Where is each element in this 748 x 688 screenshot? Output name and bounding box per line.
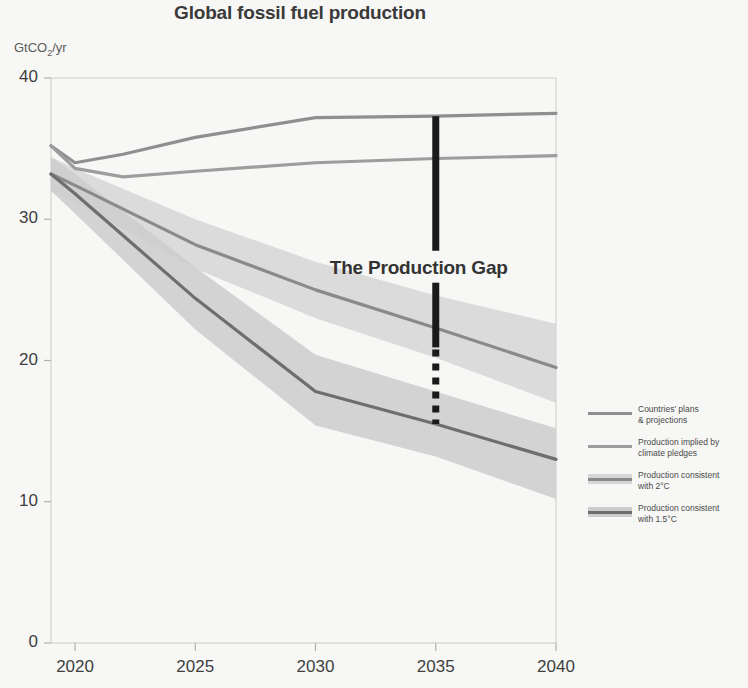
- legend-label: Countries' plans& projections: [632, 404, 699, 426]
- x-axis-tick-label: 2025: [165, 657, 225, 677]
- legend-label-line1: Production consistent: [638, 503, 719, 514]
- legend-label: Production implied byclimate pledges: [632, 437, 719, 459]
- legend-label-line2: with 2°C: [638, 481, 719, 492]
- x-axis-tick-label: 2040: [526, 657, 586, 677]
- legend-label: Production consistentwith 1.5°C: [632, 503, 719, 525]
- x-axis-tick-label: 2035: [406, 657, 466, 677]
- series-line: [51, 113, 556, 162]
- y-axis-tick-label: 10: [4, 491, 38, 511]
- legend-line: [588, 412, 632, 415]
- legend-label-line1: Countries' plans: [638, 404, 699, 415]
- legend-line: [588, 478, 632, 481]
- chart-legend: Countries' plans& projectionsProduction …: [588, 404, 748, 536]
- legend-line: [588, 445, 632, 448]
- legend-label-line1: Production implied by: [638, 437, 719, 448]
- legend-swatch: [588, 472, 632, 486]
- series-line: [51, 146, 556, 177]
- production-gap-annotation-label: The Production Gap: [330, 257, 508, 279]
- plot-area: [0, 0, 748, 688]
- x-axis-tick-label: 2020: [45, 657, 105, 677]
- legend-label-line2: climate pledges: [638, 448, 719, 459]
- y-axis-tick-label: 40: [4, 67, 38, 87]
- legend-swatch: [588, 439, 632, 453]
- legend-item[interactable]: Production consistentwith 1.5°C: [588, 503, 748, 525]
- legend-label-line1: Production consistent: [638, 470, 719, 481]
- legend-label-line2: & projections: [638, 415, 699, 426]
- legend-label-line2: with 1.5°C: [638, 514, 719, 525]
- legend-item[interactable]: Countries' plans& projections: [588, 404, 748, 426]
- legend-item[interactable]: Production consistentwith 2°C: [588, 470, 748, 492]
- legend-line: [588, 511, 632, 514]
- x-axis-tick-label: 2030: [286, 657, 346, 677]
- chart-root: Global fossil fuel production GtCO2/yr T…: [0, 0, 748, 688]
- legend-item[interactable]: Production implied byclimate pledges: [588, 437, 748, 459]
- legend-label: Production consistentwith 2°C: [632, 470, 719, 492]
- legend-swatch: [588, 406, 632, 420]
- y-axis-tick-label: 20: [4, 350, 38, 370]
- legend-swatch: [588, 505, 632, 519]
- y-axis-tick-label: 30: [4, 208, 38, 228]
- y-axis-tick-label: 0: [4, 632, 38, 652]
